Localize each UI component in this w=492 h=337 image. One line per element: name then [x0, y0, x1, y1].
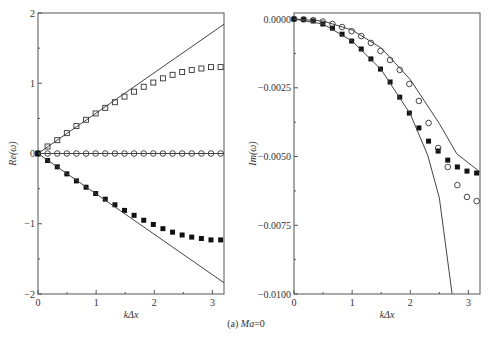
figure-caption: (a) Ma=0 [0, 318, 492, 329]
filled-square-marker [464, 169, 469, 174]
x-tick-label: 1 [94, 297, 99, 308]
open-square-marker [199, 66, 204, 71]
y-tick-label: 1 [30, 78, 35, 89]
x-tick-label: 0 [36, 297, 41, 308]
y-axis-label: Im(ω) [247, 141, 259, 167]
plot-frame [294, 13, 480, 294]
open-circle-marker [416, 98, 422, 104]
x-tick-label: 3 [210, 297, 215, 308]
x-tick-label: 1 [350, 297, 355, 308]
filled-square-marker [132, 213, 137, 218]
re-omega-plot: 0123−2−1012kΔxRe(ω) [7, 8, 224, 321]
y-axis-label: Re(ω) [7, 141, 19, 167]
open-square-marker [170, 72, 175, 77]
open-square-marker [132, 89, 137, 94]
filled-square-marker [218, 237, 223, 242]
open-circle-marker [426, 120, 432, 126]
x-tick-label: 2 [152, 297, 157, 308]
y-tick-label: −0.0075 [258, 220, 291, 231]
open-circle-marker [474, 198, 480, 204]
open-square-marker [141, 84, 146, 89]
exact-solution-curve [38, 24, 224, 153]
open-square-marker [189, 67, 194, 72]
y-tick-label: −1 [24, 218, 35, 229]
open-square-marker [160, 76, 165, 81]
filled-square-marker [141, 218, 146, 223]
open-square-marker [151, 80, 156, 85]
filled-square-marker [208, 237, 213, 242]
exact-solution-curve [38, 154, 224, 283]
figure: 0123−2−1012kΔxRe(ω)01230.0000−0.0025−0.0… [0, 0, 492, 337]
open-square-marker [180, 70, 185, 75]
filled-square-marker [359, 47, 364, 52]
y-tick-label: −0.0050 [258, 151, 291, 162]
open-square-marker [218, 65, 223, 70]
filled-square-marker [180, 232, 185, 237]
open-circle-marker [464, 194, 470, 200]
exact-solution-curve [294, 19, 480, 172]
open-square-marker [208, 65, 213, 70]
filled-square-marker [170, 230, 175, 235]
open-circle-marker [445, 164, 451, 170]
y-tick-label: 0 [30, 148, 35, 159]
filled-square-marker [160, 226, 165, 231]
filled-square-marker [455, 164, 460, 169]
y-tick-label: −0.0100 [258, 289, 291, 300]
caption-variable: Ma [241, 318, 254, 329]
y-tick-label: −0.0025 [258, 82, 291, 93]
open-circle-marker [455, 182, 461, 188]
y-tick-label: −2 [24, 289, 35, 300]
im-omega-plot: 01230.0000−0.0025−0.0050−0.0075−0.0100kΔ… [247, 13, 480, 320]
y-tick-label: 2 [30, 8, 35, 19]
filled-square-marker [189, 235, 194, 240]
x-tick-label: 0 [292, 297, 297, 308]
filled-square-marker [426, 139, 431, 144]
x-tick-label: 3 [466, 297, 471, 308]
filled-square-marker [151, 222, 156, 227]
x-tick-label: 2 [408, 297, 413, 308]
y-tick-label: 0.0000 [264, 14, 292, 25]
filled-square-marker [199, 236, 204, 241]
filled-square-marker [445, 158, 450, 163]
